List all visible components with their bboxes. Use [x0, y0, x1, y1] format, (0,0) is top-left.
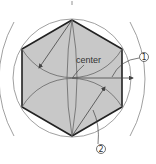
marker-2-label: 2	[99, 145, 104, 154]
hexagon-construction-diagram: center 1 2	[0, 0, 156, 164]
outer-arc-left	[0, 22, 14, 136]
outer-arc-right	[130, 22, 145, 136]
center-label: center	[76, 55, 101, 65]
marker-1-label: 1	[142, 53, 147, 62]
